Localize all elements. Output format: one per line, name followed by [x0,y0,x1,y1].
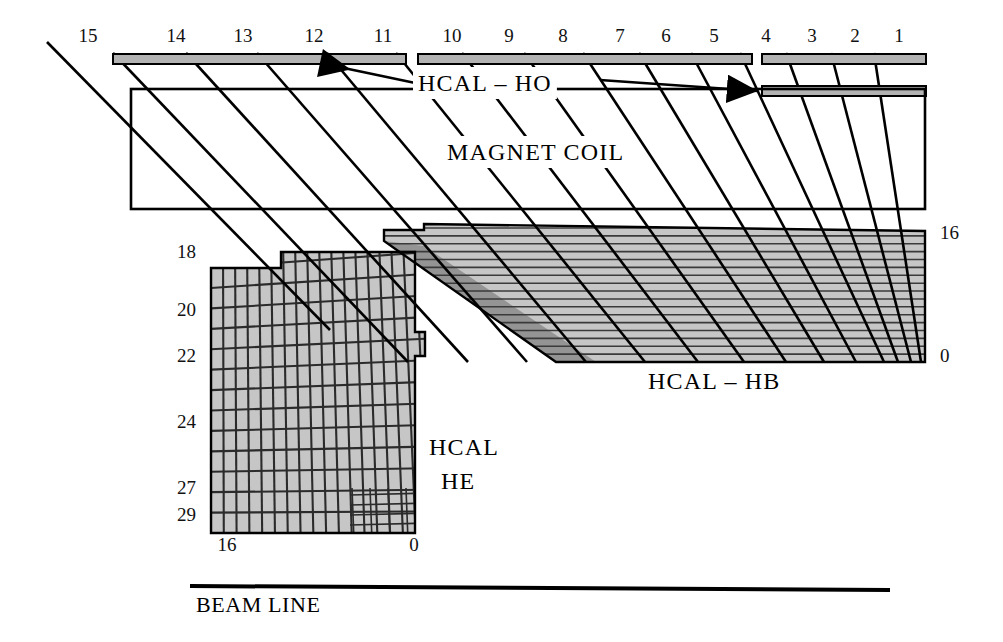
eta-top-label: 13 [234,25,253,46]
eta-top-label: 5 [709,25,719,46]
hcal-he-label-line2: HE [441,468,475,494]
he-segment-line [223,240,224,545]
hcal-longitudinal-section-diagram: HCAL – HO MAGNET COIL HCAL – HB HCAL HE … [0,0,1003,642]
ho-bar-central [418,54,752,64]
eta-top-label: 3 [807,25,817,46]
he-eta-label: 29 [177,504,196,525]
ho-bar-main [113,54,406,64]
figure-canvas: HCAL – HO MAGNET COIL HCAL – HB HCAL HE … [0,0,1003,642]
he-layer-line [205,511,430,512]
eta-top-label: 15 [79,25,98,46]
he-eta-label: 20 [177,299,196,320]
he-eta-label: 27 [177,477,196,498]
eta-top-label: 12 [305,25,324,46]
ho-bar-ring4-upper [762,54,926,64]
eta-top-label: 14 [167,25,187,46]
eta-top-label: 1 [894,25,904,46]
ho-bar-ring4-lower [762,86,926,96]
hcal-ho-label: HCAL – HO [418,70,552,96]
eta-top-label: 2 [850,25,860,46]
hcal-he-label-line1: HCAL [429,434,499,460]
eta-top-label: 11 [374,25,392,46]
he-depth-right-label: 0 [409,534,419,555]
he-eta-label: 22 [177,345,196,366]
he-eta-label: 18 [177,241,196,262]
eta-top-label: 8 [558,25,568,46]
eta-top-label: 10 [443,25,462,46]
hb-depth-bottom-label: 0 [940,345,950,366]
he-eta-label: 24 [177,411,197,432]
eta-top-label: 9 [504,25,514,46]
eta-top-label: 6 [661,25,671,46]
eta-top-label: 7 [615,25,625,46]
beam-line-label: BEAM LINE [196,592,321,617]
hcal-he-region [205,240,430,545]
he-depth-left-label: 16 [218,534,237,555]
hcal-hb-label: HCAL – HB [648,368,781,394]
magnet-coil-label: MAGNET COIL [447,139,624,165]
hb-depth-top-label: 16 [940,222,959,243]
eta-top-label: 4 [761,25,771,46]
